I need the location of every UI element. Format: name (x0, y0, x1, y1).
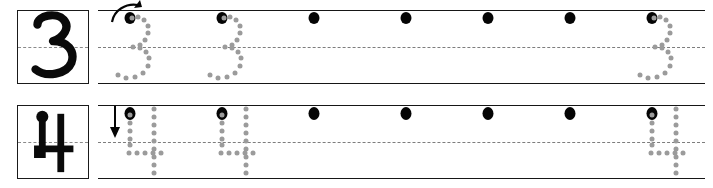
model-numeral-four (18, 106, 88, 178)
band-bottom-rule (98, 83, 705, 84)
guide-dot (152, 115, 157, 120)
guide-dot (649, 151, 654, 156)
guide-dot (142, 18, 147, 23)
guide-dot (674, 115, 679, 120)
guide-dot (674, 139, 679, 144)
guide-dot (130, 16, 135, 21)
guide-dot (128, 129, 133, 134)
guide-dot (152, 131, 157, 136)
guide-dot (216, 76, 221, 81)
guide-dot (674, 131, 679, 136)
guide-dot (664, 18, 669, 23)
guide-dot (233, 71, 238, 76)
guide-dot (146, 64, 151, 69)
guide-dot (652, 16, 657, 21)
guide-dot (674, 147, 679, 152)
start-dot (483, 12, 494, 24)
guide-dot (674, 155, 679, 160)
guide-dot (244, 171, 249, 176)
guide-dot (638, 73, 643, 78)
guide-dot (116, 73, 121, 78)
guide-dot (128, 137, 133, 142)
guide-dot (657, 151, 662, 156)
guide-dot (681, 151, 686, 156)
practice-row-three (0, 4, 713, 94)
guide-dot (152, 123, 157, 128)
guide-dot (234, 18, 239, 23)
guide-dot (238, 24, 243, 29)
guide-dot (646, 76, 651, 81)
guide-dot (225, 75, 230, 80)
guide-dot (159, 151, 164, 156)
guide-dot (251, 151, 256, 156)
guide-dot (674, 123, 679, 128)
guide-dot (143, 151, 148, 156)
guide-dot (146, 24, 151, 29)
guide-dot (244, 147, 249, 152)
guide-dot (665, 151, 670, 156)
guide-dot (239, 56, 244, 61)
start-dot (309, 107, 320, 120)
guide-dot (244, 163, 249, 168)
guide-dot (666, 50, 671, 55)
guide-dot (135, 151, 140, 156)
guide-dot (227, 151, 232, 156)
start-dot (401, 107, 412, 120)
model-box-three (17, 10, 89, 84)
guide-dot (222, 16, 227, 21)
band-top-rule (98, 105, 705, 106)
guide-dot (152, 147, 157, 152)
guide-dot (220, 113, 225, 118)
guide-dot (143, 38, 148, 43)
guide-dot (131, 45, 136, 50)
model-numeral-three (18, 11, 88, 83)
start-dot (565, 12, 576, 24)
guide-dot (674, 163, 679, 168)
guide-dot (152, 107, 157, 112)
guide-dot (655, 75, 660, 80)
guide-dot (147, 56, 152, 61)
writing-band-four (98, 105, 705, 179)
guide-dot (235, 151, 240, 156)
guide-dot (650, 129, 655, 134)
guide-dot (128, 143, 133, 148)
guide-dot (127, 151, 132, 156)
guide-dot (244, 139, 249, 144)
guide-dot (128, 121, 133, 126)
guide-dot (230, 46, 235, 51)
guide-dot (650, 113, 655, 118)
guide-dot (208, 73, 213, 78)
guide-dot (674, 107, 679, 112)
guide-dot (146, 31, 151, 36)
guide-dot (668, 31, 673, 36)
start-dot (483, 107, 494, 120)
stroke-arrow-down-four (106, 105, 124, 139)
guide-dot (152, 163, 157, 168)
guide-dot (244, 107, 249, 112)
start-dot (309, 12, 320, 24)
guide-dot (244, 123, 249, 128)
guide-dot (665, 38, 670, 43)
guide-dot (152, 171, 157, 176)
guide-dot (238, 64, 243, 69)
band-mid-rule (98, 142, 705, 143)
guide-dot (653, 45, 658, 50)
band-mid-rule (98, 47, 705, 48)
guide-dot (244, 155, 249, 160)
guide-dot (650, 143, 655, 148)
guide-dot (220, 129, 225, 134)
guide-dot (235, 38, 240, 43)
model-box-four (17, 105, 89, 179)
guide-dot (228, 15, 233, 20)
guide-dot (152, 139, 157, 144)
guide-dot (668, 24, 673, 29)
guide-dot (219, 151, 224, 156)
guide-dot (136, 15, 141, 20)
guide-dot (128, 113, 133, 118)
guide-dot (124, 76, 129, 81)
guide-dot (674, 171, 679, 176)
band-top-rule (98, 10, 705, 11)
guide-dot (244, 131, 249, 136)
guide-dot (660, 46, 665, 51)
practice-row-four (0, 99, 713, 188)
